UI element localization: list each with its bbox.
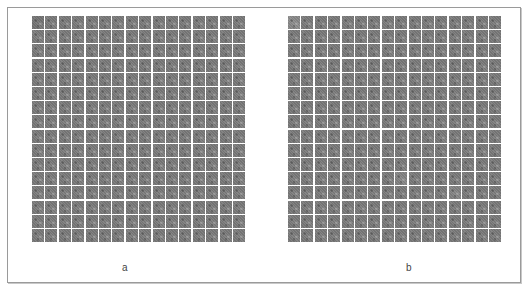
filter-tile [449,201,461,214]
filter-tile [328,101,340,114]
filter-tile [193,30,205,43]
filter-tile [395,186,407,199]
filter-tile [355,87,367,100]
filter-tile [233,115,245,128]
filter-tile [355,172,367,185]
filter-tile [409,87,421,100]
filter-tile [45,172,57,185]
filter-tile [342,201,354,214]
filter-tile [476,186,488,199]
filter-tile [86,144,98,157]
filter-tile [86,158,98,171]
filter-tile [489,87,501,100]
filter-tile [476,158,488,171]
filter-tile [342,44,354,57]
filter-tile [288,44,300,57]
filter-tile [233,172,245,185]
filter-tile [72,87,84,100]
filter-tile [59,130,71,143]
filter-tile [489,30,501,43]
filter-tile [99,229,111,242]
filter-tile [139,87,151,100]
filter-tile [328,144,340,157]
filter-tile [72,59,84,72]
filter-tile [288,144,300,157]
filter-tile [86,101,98,114]
filter-tile [99,73,111,86]
filter-tile [435,30,447,43]
filter-tile [476,101,488,114]
filter-tile [153,87,165,100]
filter-tile [126,158,138,171]
filter-tile [139,201,151,214]
filter-tile [45,144,57,157]
filter-tile [301,30,313,43]
filter-tile [153,158,165,171]
filter-tile [449,73,461,86]
filter-tile [368,101,380,114]
filter-tile [206,144,218,157]
filter-tile [449,30,461,43]
filter-tile [315,44,327,57]
filter-tile [112,130,124,143]
filter-tile [489,172,501,185]
filter-tile [153,16,165,29]
filter-tile [233,59,245,72]
filter-tile [99,59,111,72]
filter-tile [368,130,380,143]
filter-tile [112,101,124,114]
filter-tile [435,158,447,171]
filter-tile [435,115,447,128]
filter-tile [288,73,300,86]
filter-tile [368,158,380,171]
filter-tile [112,144,124,157]
filter-tile [368,59,380,72]
filter-tile [86,115,98,128]
filter-tile [59,115,71,128]
filter-tile [72,229,84,242]
filter-tile [368,44,380,57]
filter-tile [153,172,165,185]
filter-tile [166,115,178,128]
filter-tile [32,30,44,43]
filter-tile [395,44,407,57]
filter-tile [368,87,380,100]
filter-tile [153,59,165,72]
filter-tile [489,158,501,171]
filter-tile [59,215,71,228]
filter-tile [288,172,300,185]
filter-tile [206,59,218,72]
filter-tile [315,158,327,171]
filter-tile [328,115,340,128]
filter-tile [45,186,57,199]
filter-tile [395,201,407,214]
filter-tile [179,73,191,86]
filter-tile [72,115,84,128]
filter-tile [166,73,178,86]
filter-tile [32,101,44,114]
filter-tile [179,30,191,43]
filter-tile [395,229,407,242]
filter-tile [72,44,84,57]
filter-tile [126,144,138,157]
filter-tile [476,201,488,214]
panel-label-b: b [406,262,412,273]
filter-tile [435,73,447,86]
filter-tile [193,172,205,185]
filter-tile [59,16,71,29]
filter-tile [462,229,474,242]
filter-tile [220,229,232,242]
filter-tile [301,16,313,29]
filter-tile [449,115,461,128]
filter-tile [153,186,165,199]
filter-tile [153,130,165,143]
filter-tile [45,201,57,214]
filter-tile [342,101,354,114]
filter-tile [166,144,178,157]
filter-tile [435,101,447,114]
filter-tile [112,201,124,214]
filter-tile [422,16,434,29]
filter-tile [112,215,124,228]
filter-tile [126,115,138,128]
filter-tile [355,229,367,242]
